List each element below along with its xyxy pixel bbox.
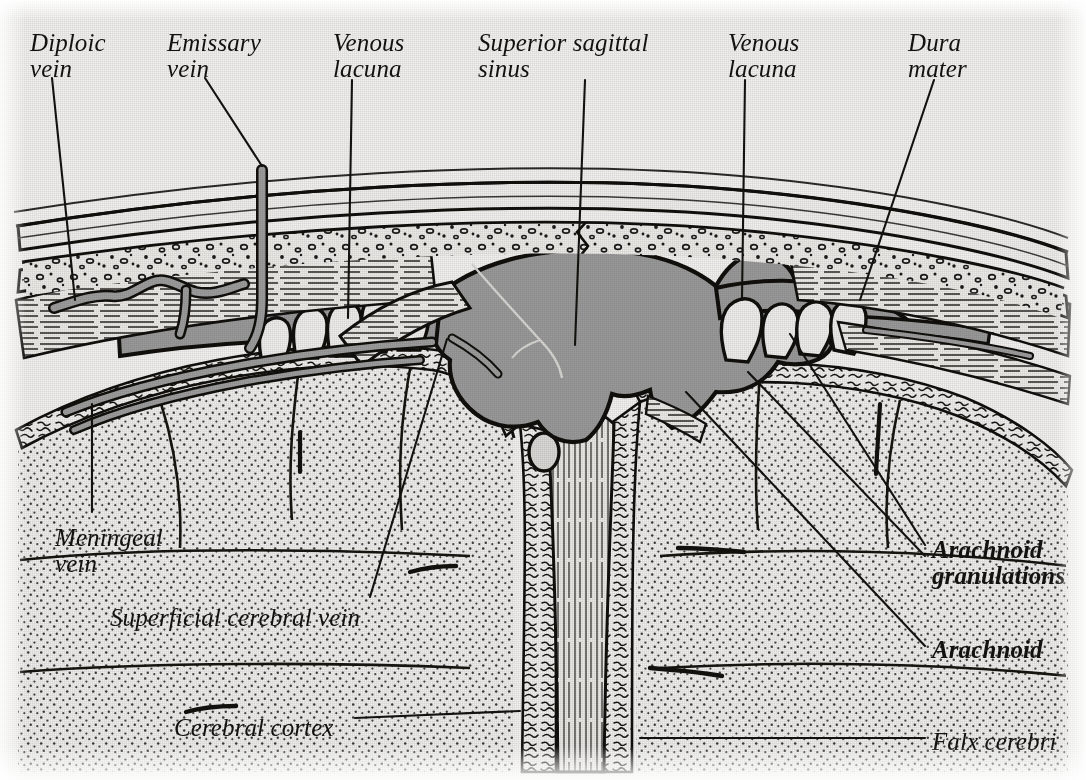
- label-line-1: Falx cerebri: [932, 729, 1057, 755]
- label-venous-lacuna-right: Venouslacuna: [728, 30, 799, 83]
- label-emissary-vein: Emissaryvein: [167, 30, 261, 83]
- label-line-1: Venous: [728, 30, 799, 56]
- label-line-2: lacuna: [728, 56, 799, 82]
- leader-cerebral-cortex: [355, 711, 520, 718]
- leader-dura-mater: [860, 80, 934, 300]
- label-line-2: vein: [55, 551, 163, 577]
- label-arachnoid: Arachnoid: [932, 637, 1043, 663]
- label-diploic-vein: Diploicvein: [30, 30, 106, 83]
- label-line-2: vein: [30, 56, 106, 82]
- label-line-1: Superficial cerebral vein: [110, 605, 360, 631]
- label-meningeal-vein: Meningealvein: [55, 525, 163, 578]
- label-line-2: mater: [908, 56, 967, 82]
- leader-diploic-vein: [52, 78, 75, 300]
- label-superior-sagittal-sinus: Superior sagittalsinus: [478, 30, 648, 83]
- leader-arachnoid-granulations-2: [748, 372, 925, 556]
- label-cerebral-cortex: Cerebral cortex: [174, 715, 334, 741]
- leader-superficial-cerebral-vein: [370, 339, 447, 597]
- label-falx-cerebri: Falx cerebri: [932, 729, 1057, 755]
- leader-superior-sagittal-sinus: [575, 80, 585, 345]
- label-line-2: lacuna: [333, 56, 404, 82]
- label-line-1: Venous: [333, 30, 404, 56]
- label-line-2: sinus: [478, 56, 648, 82]
- label-line-1: Emissary: [167, 30, 261, 56]
- label-line-1: Meningeal: [55, 525, 163, 551]
- label-line-2: granulations: [932, 563, 1065, 589]
- label-line-1: Dura: [908, 30, 967, 56]
- leader-emissary-vein: [205, 78, 262, 166]
- leader-line-group: [0, 0, 1086, 780]
- label-superficial-cerebral-vein: Superficial cerebral vein: [110, 605, 360, 631]
- leader-arachnoid-granulations-1: [790, 334, 925, 545]
- label-line-1: Arachnoid: [932, 537, 1065, 563]
- label-line-1: Arachnoid: [932, 637, 1043, 663]
- label-line-1: Cerebral cortex: [174, 715, 334, 741]
- label-dura-mater: Duramater: [908, 30, 967, 83]
- label-line-2: vein: [167, 56, 261, 82]
- leader-venous-lacuna-right: [742, 80, 745, 300]
- leader-venous-lacuna-left: [348, 80, 352, 318]
- figure-canvas: DiploicveinEmissaryveinVenouslacunaSuper…: [0, 0, 1086, 780]
- label-line-1: Superior sagittal: [478, 30, 648, 56]
- label-venous-lacuna-left: Venouslacuna: [333, 30, 404, 83]
- label-arachnoid-granulations: Arachnoidgranulations: [932, 537, 1065, 590]
- label-line-1: Diploic: [30, 30, 106, 56]
